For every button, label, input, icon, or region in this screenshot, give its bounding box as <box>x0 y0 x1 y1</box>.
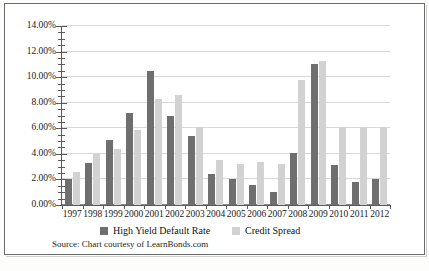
bar <box>352 182 359 205</box>
x-axis <box>61 205 390 206</box>
y-axis-tick <box>56 77 67 78</box>
bar <box>249 185 256 205</box>
bar <box>298 80 305 205</box>
y-axis-tick-label: 0.00% <box>0 200 56 210</box>
y-axis-tick-label: 2.00% <box>0 174 56 184</box>
y-axis-tick <box>56 179 67 180</box>
bar <box>167 116 174 206</box>
x-axis-tick-label: 2012 <box>366 209 394 219</box>
bar <box>147 71 154 205</box>
y-axis-minor-tick <box>58 186 65 187</box>
y-axis-minor-tick <box>58 58 65 59</box>
y-axis-minor-tick <box>58 32 65 33</box>
legend-label: High Yield Default Rate <box>113 226 210 236</box>
y-axis-tick-label: 6.00% <box>0 123 56 133</box>
y-axis-tick <box>56 154 67 155</box>
bar <box>85 163 92 205</box>
y-axis-minor-tick <box>58 45 65 46</box>
y-axis-tick-label: 4.00% <box>0 149 56 159</box>
y-axis-tick <box>56 26 67 27</box>
y-axis-minor-tick <box>58 160 65 161</box>
y-axis-minor-tick <box>58 199 65 200</box>
x-axis-tick-labels: 1997199819992000200120022003200420052006… <box>62 209 390 223</box>
legend-label: Credit Spread <box>245 226 300 236</box>
y-axis-minor-tick <box>58 84 65 85</box>
y-axis-minor-tick <box>58 39 65 40</box>
bar <box>93 154 100 205</box>
gridline <box>62 76 390 77</box>
gridline <box>62 51 390 52</box>
bar <box>216 160 223 205</box>
bar <box>106 140 113 205</box>
y-axis-minor-tick <box>58 71 65 72</box>
bar <box>188 136 195 205</box>
bar <box>380 127 387 205</box>
y-axis-tick-label: 10.00% <box>0 72 56 82</box>
bar <box>278 164 285 205</box>
gridline <box>62 25 390 26</box>
y-axis-tick <box>56 52 67 53</box>
bar <box>229 179 236 205</box>
legend-item: Credit Spread <box>232 226 300 236</box>
source-note: Source: Chart courtesy of LearnBonds.com <box>52 239 208 249</box>
y-axis-minor-tick <box>58 135 65 136</box>
bar <box>155 99 162 205</box>
bar <box>73 172 80 205</box>
plot-area <box>62 26 390 205</box>
legend-item: High Yield Default Rate <box>100 226 210 236</box>
y-axis-minor-tick <box>58 147 65 148</box>
bar <box>65 179 72 205</box>
y-axis-minor-tick <box>58 192 65 193</box>
y-axis-minor-tick <box>58 90 65 91</box>
bar <box>257 162 264 205</box>
bar <box>237 164 244 205</box>
y-axis-tick-label: 8.00% <box>0 98 56 108</box>
bar <box>372 179 379 205</box>
bar <box>331 165 338 205</box>
bar <box>339 127 346 205</box>
y-axis-minor-tick <box>58 141 65 142</box>
bar <box>126 113 133 205</box>
y-axis-minor-tick <box>58 64 65 65</box>
bar <box>114 149 121 205</box>
bar <box>360 127 367 205</box>
y-axis-tick <box>56 103 67 104</box>
y-axis-minor-tick <box>58 109 65 110</box>
chart-figure: 1997199819992000200120022003200420052006… <box>0 0 429 271</box>
legend-swatch-icon <box>232 227 240 235</box>
y-axis-tick <box>56 128 67 129</box>
y-axis-tick-label: 14.00% <box>0 21 56 31</box>
y-axis-minor-tick <box>58 122 65 123</box>
y-axis-minor-tick <box>58 173 65 174</box>
bar <box>290 153 297 205</box>
bar <box>270 192 277 205</box>
bar <box>311 64 318 205</box>
chart-legend: High Yield Default RateCredit Spread <box>62 226 392 240</box>
bar <box>196 127 203 205</box>
gridline <box>62 102 390 103</box>
y-axis <box>61 26 62 206</box>
bar <box>134 130 141 205</box>
bar <box>175 95 182 205</box>
legend-swatch-icon <box>100 227 108 235</box>
y-axis-minor-tick <box>58 167 65 168</box>
y-axis-minor-tick <box>58 116 65 117</box>
y-axis-tick-label: 12.00% <box>0 47 56 57</box>
bar <box>319 61 326 205</box>
y-axis-minor-tick <box>58 96 65 97</box>
bar <box>208 174 215 205</box>
